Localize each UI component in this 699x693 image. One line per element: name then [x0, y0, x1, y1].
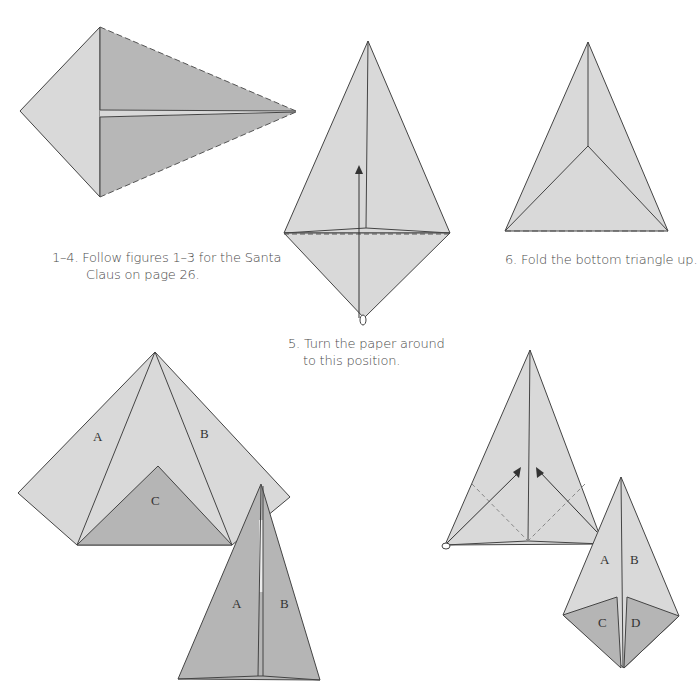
label-a: A: [93, 429, 103, 444]
label-b: B: [200, 426, 209, 441]
fig5-start-loop: [360, 315, 366, 325]
caption-line: 6. Fold the bottom triangle up.: [505, 251, 697, 268]
figure-6-fold-triangle: [505, 42, 668, 231]
step-5-caption: 5. Turn the paper around to this positio…: [288, 335, 445, 369]
fig5-lower-triangle: [284, 233, 450, 318]
label-a: A: [232, 596, 242, 611]
label-b: B: [280, 596, 289, 611]
caption-line: 5. Turn the paper around: [288, 335, 445, 352]
label-b: B: [630, 552, 639, 567]
figure-9-fold-sides: [442, 350, 603, 549]
fig9-start-loop: [442, 543, 450, 549]
fig9-body: [445, 350, 603, 545]
step-6-caption: 6. Fold the bottom triangle up.: [505, 251, 697, 268]
caption-line: 1–4. Follow figures 1–3 for the Santa: [52, 249, 281, 266]
figure-1-4-kite: [20, 27, 296, 197]
label-c: C: [598, 615, 607, 630]
caption-line: Claus on page 26.: [52, 266, 281, 283]
label-a: A: [600, 552, 610, 567]
caption-line: to this position.: [288, 352, 445, 369]
kite-left-flap: [20, 27, 100, 197]
fig6-body: [505, 42, 668, 231]
label-c: C: [151, 493, 160, 508]
label-d: D: [631, 615, 640, 630]
figure-5-turned-kite: [284, 41, 450, 325]
step-1-4-caption: 1–4. Follow figures 1–3 for the Santa Cl…: [52, 249, 281, 283]
